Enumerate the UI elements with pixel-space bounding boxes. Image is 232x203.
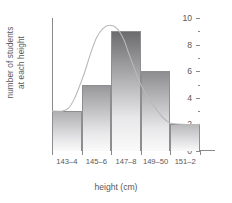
plot-area: 0246810 143–4145–6147–8149–50151–2 bbox=[52, 18, 200, 151]
bar bbox=[52, 111, 82, 151]
x-tick-label: 151–2 bbox=[175, 157, 196, 166]
bar bbox=[111, 31, 141, 151]
x-tick-label: 147–8 bbox=[115, 157, 136, 166]
x-tick-label: 143–4 bbox=[56, 157, 77, 166]
bar bbox=[141, 71, 171, 151]
bar bbox=[82, 85, 112, 152]
x-axis-title: height (cm) bbox=[0, 182, 232, 192]
bar-series bbox=[52, 18, 200, 151]
x-tick bbox=[141, 151, 142, 155]
x-tick-label: 145–6 bbox=[86, 157, 107, 166]
x-tick bbox=[111, 151, 112, 155]
y-axis-title-line1: number of students bbox=[6, 3, 17, 123]
x-tick bbox=[82, 151, 83, 155]
x-tick-label: 149–50 bbox=[143, 157, 168, 166]
x-tick bbox=[170, 151, 171, 155]
bar bbox=[170, 124, 200, 151]
histogram-chart: number of students at each height 024681… bbox=[0, 0, 232, 203]
x-tick bbox=[200, 151, 201, 155]
y-axis-title: number of students at each height bbox=[6, 3, 27, 123]
x-tick bbox=[52, 151, 53, 155]
y-axis-title-line2: at each height bbox=[16, 3, 27, 123]
